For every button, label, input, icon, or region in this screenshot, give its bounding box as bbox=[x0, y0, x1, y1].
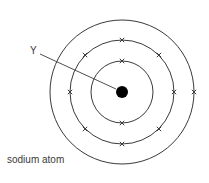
nucleus bbox=[116, 86, 128, 98]
electron-cross-icon bbox=[83, 53, 87, 57]
electron-cross-icon bbox=[83, 127, 87, 131]
electron-cross-icon bbox=[157, 53, 161, 57]
electron-cross-icon bbox=[157, 127, 161, 131]
caption: sodium atom bbox=[7, 154, 64, 165]
label-pointer-line bbox=[40, 54, 116, 89]
label-y: Y bbox=[30, 45, 37, 56]
